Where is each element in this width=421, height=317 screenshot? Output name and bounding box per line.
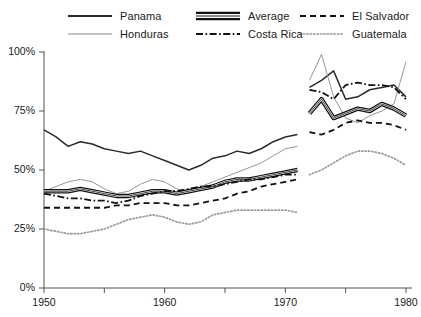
series-line — [309, 151, 406, 175]
series-line — [309, 71, 406, 99]
series-group — [44, 54, 406, 233]
series-honduras — [44, 54, 406, 193]
series-line — [44, 146, 297, 193]
y-axis-label: 50% — [0, 163, 35, 175]
chart-figure: PanamaAverageEl SalvadorHondurasCosta Ri… — [0, 0, 421, 317]
series-line — [309, 54, 406, 122]
x-axis-label: 1950 — [18, 296, 70, 308]
y-axis-label: 75% — [0, 104, 35, 116]
series-line — [44, 210, 297, 234]
x-axis-label: 1980 — [380, 296, 421, 308]
y-axis-label: 0% — [0, 281, 35, 293]
x-axis-label: 1970 — [259, 296, 311, 308]
x-axis-label: 1960 — [139, 296, 191, 308]
plot-canvas — [0, 0, 421, 317]
y-axis-label: 100% — [0, 45, 35, 57]
series-average — [44, 99, 406, 196]
y-axis-label: 25% — [0, 222, 35, 234]
series-el-salvador — [44, 120, 406, 207]
chart-plot-area: 100%75%50%25%0%1950196019701980 — [0, 0, 421, 317]
